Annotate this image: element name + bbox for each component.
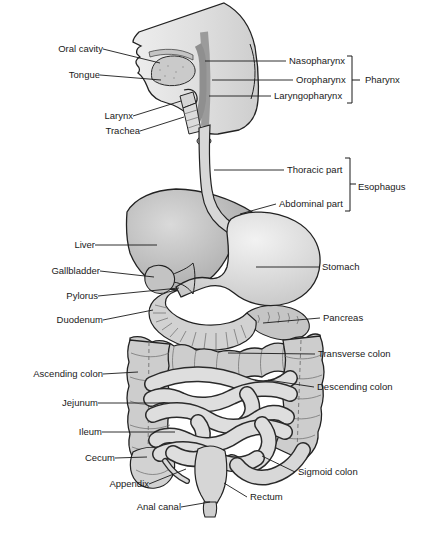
label-trachea: Trachea <box>106 125 141 137</box>
label-stomach: Stomach <box>322 261 360 273</box>
label-cecum: Cecum <box>85 452 115 464</box>
leader-rectum <box>224 483 247 497</box>
label-ascending-colon: Ascending colon <box>33 368 103 380</box>
tongue-shape <box>151 56 195 86</box>
label-larynx: Larynx <box>104 110 133 122</box>
label-gallbladder: Gallbladder <box>51 265 100 277</box>
esophagus-bracket <box>345 158 356 211</box>
label-pharynx: Pharynx <box>365 74 400 86</box>
label-ileum: Ileum <box>79 426 102 438</box>
label-laryngopharynx: Laryngopharynx <box>274 90 342 102</box>
label-nasopharynx: Nasopharynx <box>289 55 345 67</box>
label-abdominal-part: Abdominal part <box>279 198 343 210</box>
pharynx-bracket <box>347 56 360 103</box>
label-oral-cavity: Oral cavity <box>58 43 103 55</box>
label-rectum: Rectum <box>250 491 283 503</box>
label-liver: Liver <box>74 239 95 251</box>
label-pylorus: Pylorus <box>66 290 98 302</box>
anal-canal-shape <box>203 502 216 517</box>
leader-trachea <box>140 117 184 131</box>
label-transverse-colon: Transverse colon <box>318 348 391 360</box>
label-descending-colon: Descending colon <box>317 381 393 393</box>
leader-duodenum <box>103 310 153 320</box>
label-sigmoid-colon: Sigmoid colon <box>298 466 358 478</box>
rectum-shape <box>195 446 227 503</box>
digestive-system-figure: Oral cavity Tongue Larynx Trachea Nasoph… <box>0 0 429 543</box>
label-appendix: Appendix <box>109 478 149 490</box>
label-thoracic-part: Thoracic part <box>287 164 342 176</box>
leader-larynx <box>133 101 181 116</box>
label-anal-canal: Anal canal <box>137 501 181 513</box>
label-esophagus: Esophagus <box>358 181 406 193</box>
label-jejunum: Jejunum <box>62 397 98 409</box>
label-oropharynx: Oropharynx <box>296 74 346 86</box>
label-tongue: Tongue <box>69 69 100 81</box>
label-duodenum: Duodenum <box>57 314 103 326</box>
label-pancreas: Pancreas <box>323 312 363 324</box>
head-group <box>133 3 258 146</box>
